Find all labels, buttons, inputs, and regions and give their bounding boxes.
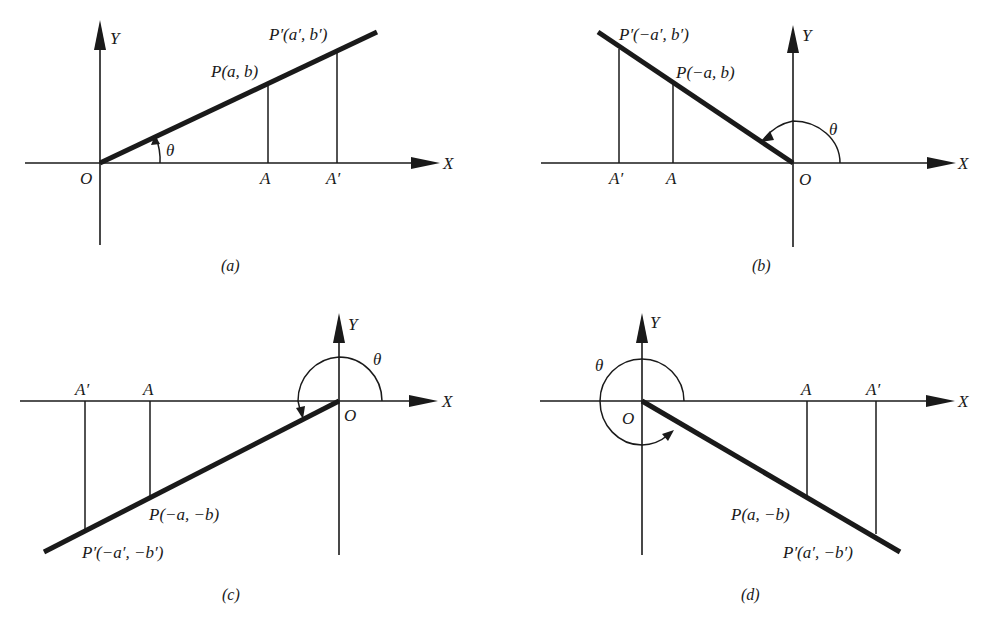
angle-label: θ <box>595 356 603 375</box>
point-P-label: P(a, b) <box>210 62 259 81</box>
foot-label-A-prime: A′ <box>608 169 623 188</box>
origin-label: O <box>799 170 811 189</box>
x-axis-label: X <box>441 392 453 411</box>
point-P-prime-label: P′(a′, b′) <box>268 25 328 44</box>
y-axis-arrow-icon <box>333 313 345 343</box>
x-axis-label: X <box>442 154 454 173</box>
origin-label: O <box>80 169 92 188</box>
x-axis-arrow-icon <box>411 157 440 169</box>
panel-d: Y X O θ A A′ P(a, −b) P′(a′, −b′) (d) <box>540 313 969 604</box>
y-axis-arrow-icon <box>787 25 799 53</box>
y-axis-label: Y <box>110 29 121 48</box>
y-axis-label: Y <box>650 313 661 332</box>
origin-label: O <box>622 409 634 428</box>
foot-label-A: A <box>665 169 677 188</box>
y-axis-label: Y <box>802 26 813 45</box>
angle-arc <box>298 357 382 414</box>
point-P-label: P(a, −b) <box>730 505 790 524</box>
foot-label-A: A <box>259 169 271 188</box>
x-axis-arrow-icon <box>926 395 955 407</box>
panel-caption: (b) <box>752 257 771 275</box>
terminal-ray <box>44 401 339 552</box>
foot-label-A: A <box>142 380 154 399</box>
point-P-label: P(−a, −b) <box>148 505 219 524</box>
origin-label: O <box>344 406 356 425</box>
terminal-ray <box>598 32 793 163</box>
angle-label: θ <box>829 120 837 139</box>
point-P-label: P(−a, b) <box>675 63 735 82</box>
panel-b: Y X O θ A′ A P(−a, b) P′(−a′, b′) (b) <box>541 25 969 275</box>
x-axis-arrow-icon <box>927 157 956 169</box>
terminal-ray <box>100 32 377 163</box>
angle-arrow-icon <box>760 131 774 142</box>
y-axis-arrow-icon <box>94 20 106 50</box>
foot-label-A: A <box>800 380 812 399</box>
foot-label-A-prime: A′ <box>865 380 880 399</box>
angle-arrow-icon <box>662 430 674 441</box>
x-axis-label: X <box>957 392 969 411</box>
x-axis-label: X <box>957 154 969 173</box>
panel-c: Y X O θ A′ A P(−a, −b) P′(−a′, −b′) (c) <box>20 313 453 604</box>
panel-caption: (a) <box>221 257 240 275</box>
panel-a: Y X O θ A A′ P(a, b) P′(a′, b′) (a) <box>25 20 454 275</box>
foot-label-A-prime: A′ <box>74 380 89 399</box>
point-P-prime-label: P′(a′, −b′) <box>782 543 853 562</box>
trig-angle-figure: Y X O θ A A′ P(a, b) P′(a′, b′) (a) Y X … <box>0 0 1004 626</box>
terminal-ray <box>642 401 900 552</box>
foot-label-A-prime: A′ <box>325 169 340 188</box>
point-P-prime-label: P′(−a′, b′) <box>618 25 689 44</box>
angle-label: θ <box>166 141 174 160</box>
x-axis-arrow-icon <box>409 395 438 407</box>
point-P-prime-label: P′(−a′, −b′) <box>81 543 164 562</box>
y-axis-label: Y <box>348 315 359 334</box>
panel-caption: (c) <box>222 586 240 604</box>
panel-caption: (d) <box>741 586 760 604</box>
angle-label: θ <box>373 350 381 369</box>
y-axis-arrow-icon <box>636 313 648 343</box>
